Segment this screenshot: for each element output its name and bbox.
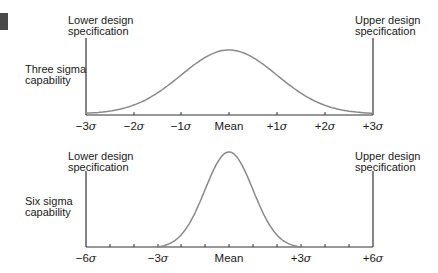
three-sigma-panel bbox=[86, 38, 373, 115]
upper-spec-label-top: Upper designspecification bbox=[355, 15, 420, 37]
three-sigma-curve bbox=[86, 50, 373, 113]
six-sigma-curve bbox=[158, 152, 301, 247]
tick-label: +1σ bbox=[267, 120, 288, 133]
tick-label: −3σ bbox=[76, 120, 97, 133]
tick-label: −3σ bbox=[148, 252, 169, 265]
tick-label: +6σ bbox=[363, 252, 384, 265]
tick-label: +3σ bbox=[291, 252, 312, 265]
six-sigma-label: Six sigmacapability bbox=[25, 196, 73, 218]
upper-spec-label-bottom: Upper designspecification bbox=[355, 151, 420, 173]
lower-spec-label-top: Lower designspecification bbox=[68, 15, 133, 37]
three-sigma-label: Three sigmacapability bbox=[25, 64, 86, 86]
tick-label: +3σ bbox=[363, 120, 384, 133]
tick-label: −6σ bbox=[76, 252, 97, 265]
tick-label-mean: Mean bbox=[215, 252, 244, 264]
sigma-capability-diagram bbox=[0, 0, 438, 273]
tick-label-mean: Mean bbox=[215, 120, 244, 132]
lower-spec-label-bottom: Lower designspecification bbox=[68, 151, 133, 173]
tick-label: −1σ bbox=[171, 120, 192, 133]
tick-label: −2σ bbox=[124, 120, 145, 133]
tick-label: +2σ bbox=[315, 120, 336, 133]
